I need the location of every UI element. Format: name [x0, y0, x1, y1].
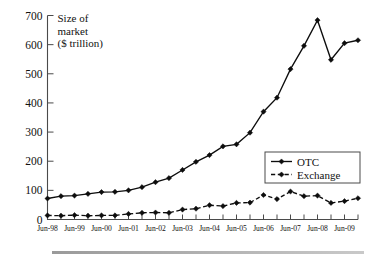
series-line-exchange: [48, 192, 359, 216]
x-tick-label-Jun-09: Jun-09: [334, 224, 355, 233]
data-point-exchange-18: [288, 189, 293, 194]
data-point-exchange-15: [247, 200, 252, 205]
data-point-exchange-3: [85, 213, 90, 218]
data-point-exchange-6: [126, 211, 131, 216]
axis-title-line-3: ($ trillion): [58, 37, 104, 50]
data-point-exchange-4: [99, 213, 104, 218]
data-point-otc-2: [72, 193, 77, 198]
data-point-exchange-2: [72, 213, 77, 218]
data-point-otc-5: [112, 189, 117, 194]
x-tick-label-Jun-99: Jun-99: [64, 224, 85, 233]
data-point-otc-6: [126, 188, 131, 193]
data-point-otc-23: [355, 38, 360, 43]
data-point-otc-8: [153, 180, 158, 185]
data-point-exchange-12: [207, 203, 212, 208]
data-point-otc-4: [99, 190, 104, 195]
data-point-exchange-16: [261, 192, 266, 197]
data-point-exchange-11: [193, 206, 198, 211]
data-point-exchange-17: [274, 197, 279, 202]
data-point-exchange-14: [234, 200, 239, 205]
y-tick-label-600: 600: [25, 39, 43, 51]
data-point-otc-3: [85, 191, 90, 196]
data-point-exchange-7: [139, 210, 144, 215]
data-point-otc-20: [315, 18, 320, 23]
chart-plot-area: 0100200300400500600700Jun-98Jun-99Jun-00…: [0, 0, 376, 258]
data-point-exchange-20: [315, 193, 320, 198]
data-point-exchange-21: [328, 200, 333, 205]
data-point-exchange-23: [355, 196, 360, 201]
data-point-exchange-9: [166, 210, 171, 215]
data-point-exchange-19: [301, 194, 306, 199]
data-point-otc-1: [58, 194, 63, 199]
data-point-otc-0: [45, 196, 50, 201]
x-tick-label-Jun-05: Jun-05: [226, 224, 247, 233]
x-tick-label-Jun-06: Jun-06: [253, 224, 274, 233]
y-tick-label-400: 400: [25, 97, 43, 109]
y-tick-label-100: 100: [25, 184, 43, 196]
y-tick-label-700: 700: [25, 10, 43, 22]
data-point-exchange-0: [45, 213, 50, 218]
bottom-divider: [52, 251, 364, 254]
x-tick-label-Jun-01: Jun-01: [118, 224, 139, 233]
data-point-exchange-5: [112, 213, 117, 218]
x-tick-label-Jun-03: Jun-03: [172, 224, 193, 233]
y-tick-label-500: 500: [25, 68, 43, 80]
data-point-exchange-8: [153, 210, 158, 215]
data-point-exchange-22: [342, 199, 347, 204]
x-tick-label-Jun-02: Jun-02: [145, 224, 166, 233]
data-point-exchange-10: [180, 207, 185, 212]
x-tick-label-Jun-04: Jun-04: [199, 224, 220, 233]
data-point-exchange-13: [220, 203, 225, 208]
legend-label-exchange: Exchange: [297, 169, 340, 181]
x-tick-label-Jun-08: Jun-08: [307, 224, 328, 233]
y-tick-label-300: 300: [25, 126, 43, 138]
axis-title-line-1: Size of: [58, 12, 89, 24]
x-tick-label-Jun-98: Jun-98: [37, 224, 58, 233]
legend-label-otc: OTC: [297, 156, 319, 168]
y-tick-label-200: 200: [25, 155, 43, 167]
axis-title-line-2: market: [58, 25, 89, 37]
data-point-otc-7: [139, 185, 144, 190]
x-tick-label-Jun-07: Jun-07: [280, 224, 301, 233]
data-point-exchange-1: [58, 213, 63, 218]
derivatives-market-size-chart: 0100200300400500600700Jun-98Jun-99Jun-00…: [0, 0, 376, 258]
x-tick-label-Jun-00: Jun-00: [91, 224, 112, 233]
